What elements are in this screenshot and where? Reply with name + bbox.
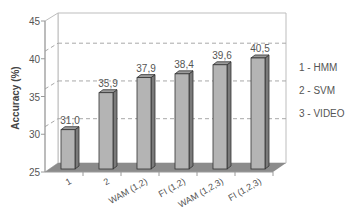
floor [45, 163, 286, 172]
y-tick-label: 30 [29, 129, 41, 140]
y-ticks: 2530354045 [29, 16, 45, 178]
bar: 37,9 [136, 63, 156, 169]
legend-item-video: 3 - VIDEO [299, 106, 345, 129]
legend: 1 - HMM 2 - SVM 3 - VIDEO [299, 60, 345, 129]
bar-value-label: 35,9 [98, 78, 118, 89]
bar: 31,0 [60, 115, 80, 169]
x-tick-label: FI (1,2) [157, 176, 187, 199]
bar: 39,6 [212, 50, 232, 169]
y-tick-label: 35 [29, 92, 41, 103]
y-tick-label: 25 [29, 167, 41, 178]
legend-item-hmm: 1 - HMM [299, 60, 345, 83]
y-tick-label: 40 [29, 54, 41, 65]
x-tick-label: WAM (1,2) [107, 176, 149, 206]
bar-value-label: 31,0 [60, 115, 80, 126]
bar-value-label: 39,6 [212, 50, 232, 61]
x-tick-label: FI (1,2,3) [226, 176, 263, 203]
bar: 38,4 [174, 59, 194, 169]
side-wall [45, 13, 58, 172]
y-axis-label: Accuracy (%) [10, 66, 21, 129]
x-tick-label: 2 [102, 176, 111, 187]
bar: 35,9 [98, 78, 118, 169]
y-tick-label: 45 [29, 16, 41, 27]
bar-value-label: 38,4 [174, 59, 194, 70]
x-tick-labels: 12WAM (1,2)FI (1,2)WAM (1,2,3)FI (1,2,3) [64, 172, 273, 210]
bar: 40,5 [250, 43, 270, 169]
x-tick-label: 1 [64, 176, 73, 187]
bar-value-label: 40,5 [250, 43, 270, 54]
legend-item-svm: 2 - SVM [299, 83, 345, 106]
bar-value-label: 37,9 [136, 63, 156, 74]
